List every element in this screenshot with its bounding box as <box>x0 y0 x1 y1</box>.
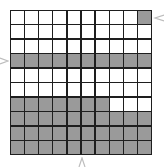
shaded-cell <box>39 98 52 111</box>
shaded-cell <box>53 98 66 111</box>
empty-cell <box>68 40 81 53</box>
shaded-cell <box>96 141 109 154</box>
empty-cell <box>96 83 109 96</box>
empty-cell <box>110 98 123 111</box>
empty-cell <box>110 69 123 82</box>
shaded-cell <box>138 11 151 24</box>
empty-cell <box>82 11 95 24</box>
shaded-cell <box>96 98 109 111</box>
shaded-cell <box>110 112 123 125</box>
empty-cell <box>11 69 24 82</box>
shaded-cell <box>39 54 52 67</box>
empty-cell <box>124 83 137 96</box>
empty-cell <box>124 69 137 82</box>
shaded-cell <box>82 112 95 125</box>
empty-cell <box>138 98 151 111</box>
shaded-cell <box>53 54 66 67</box>
empty-cell <box>124 98 137 111</box>
empty-cell <box>39 25 52 38</box>
empty-cell <box>25 40 38 53</box>
empty-cell <box>68 25 81 38</box>
shaded-cell <box>39 112 52 125</box>
shaded-cell <box>82 127 95 140</box>
empty-cell <box>82 83 95 96</box>
shaded-cell <box>124 112 137 125</box>
shaded-cell <box>25 112 38 125</box>
shaded-cell <box>25 98 38 111</box>
shaded-cell <box>68 98 81 111</box>
shaded-cell <box>138 54 151 67</box>
shaded-cell <box>53 112 66 125</box>
empty-cell <box>82 69 95 82</box>
empty-cell <box>11 40 24 53</box>
empty-cell <box>138 25 151 38</box>
empty-cell <box>138 40 151 53</box>
empty-cell <box>124 11 137 24</box>
empty-cell <box>82 25 95 38</box>
shaded-cell <box>82 54 95 67</box>
empty-cell <box>25 83 38 96</box>
empty-cell <box>96 11 109 24</box>
shaded-cell <box>11 98 24 111</box>
shaded-cell <box>96 54 109 67</box>
empty-cell <box>110 83 123 96</box>
empty-cell <box>96 69 109 82</box>
empty-cell <box>25 11 38 24</box>
empty-cell <box>124 25 137 38</box>
right-arrow-icon <box>152 13 164 23</box>
shaded-cell <box>25 127 38 140</box>
shaded-cell <box>82 141 95 154</box>
empty-cell <box>96 40 109 53</box>
empty-cell <box>68 83 81 96</box>
shaded-cell <box>11 141 24 154</box>
shaded-cell <box>11 127 24 140</box>
shaded-cell <box>39 127 52 140</box>
empty-cell <box>82 40 95 53</box>
empty-cell <box>138 69 151 82</box>
empty-cell <box>68 69 81 82</box>
shaded-cell <box>68 141 81 154</box>
shaded-cell <box>68 112 81 125</box>
empty-cell <box>25 25 38 38</box>
empty-cell <box>53 40 66 53</box>
shaded-cell <box>68 127 81 140</box>
empty-cell <box>39 83 52 96</box>
empty-cell <box>110 11 123 24</box>
shaded-cell <box>11 54 24 67</box>
empty-cell <box>39 11 52 24</box>
empty-cell <box>25 69 38 82</box>
empty-cell <box>110 40 123 53</box>
empty-cell <box>11 83 24 96</box>
empty-cell <box>68 11 81 24</box>
empty-cell <box>53 11 66 24</box>
shaded-cell <box>110 127 123 140</box>
shaded-cell <box>124 127 137 140</box>
shaded-cell <box>96 112 109 125</box>
empty-cell <box>110 25 123 38</box>
shaded-cell <box>96 127 109 140</box>
empty-cell <box>39 69 52 82</box>
empty-cell <box>138 83 151 96</box>
shaded-cell <box>124 54 137 67</box>
shaded-cell <box>11 112 24 125</box>
shaded-cell <box>138 141 151 154</box>
shaded-cell <box>39 141 52 154</box>
shaded-cell <box>110 54 123 67</box>
shaded-cell <box>25 141 38 154</box>
left-arrow-icon <box>0 56 9 66</box>
empty-cell <box>53 25 66 38</box>
shaded-cell <box>124 141 137 154</box>
empty-cell <box>124 40 137 53</box>
empty-cell <box>96 25 109 38</box>
empty-cell <box>11 11 24 24</box>
empty-cell <box>53 83 66 96</box>
shaded-cell <box>68 54 81 67</box>
shaded-cell <box>138 112 151 125</box>
hundred-grid <box>10 10 152 155</box>
up-arrow-icon <box>77 157 87 167</box>
shaded-cell <box>138 127 151 140</box>
shaded-cell <box>25 54 38 67</box>
empty-cell <box>11 25 24 38</box>
empty-cell <box>53 69 66 82</box>
shaded-cell <box>53 141 66 154</box>
